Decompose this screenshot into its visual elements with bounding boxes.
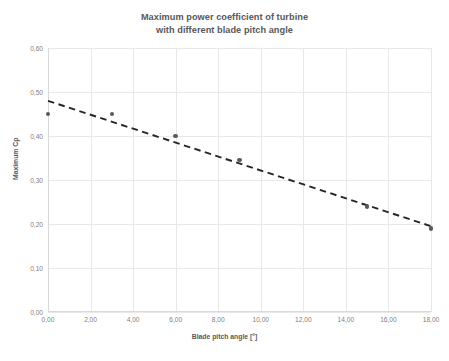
chart-title-line-2: with different blade pitch angle	[0, 24, 449, 37]
x-tick-label: 0,00	[42, 316, 55, 323]
trendline	[48, 101, 431, 226]
x-tick-label: 10,00	[253, 316, 270, 323]
gridline-horizontal	[48, 312, 431, 313]
trendline-layer	[48, 48, 431, 312]
x-tick-label: 12,00	[295, 316, 312, 323]
y-tick-label: 0,20	[30, 221, 43, 228]
x-tick-label: 8,00	[212, 316, 225, 323]
x-tick-label: 2,00	[84, 316, 97, 323]
x-axis-title: Blade pitch angle [°]	[0, 333, 449, 340]
y-tick-label: 0,40	[30, 133, 43, 140]
y-axis-title: Maximum Cp	[12, 138, 19, 180]
gridline-vertical	[431, 48, 432, 312]
x-tick-label: 6,00	[169, 316, 182, 323]
x-tick-label: 18,00	[423, 316, 440, 323]
x-tick-label: 16,00	[380, 316, 397, 323]
chart-title-line-1: Maximum power coefficient of turbine	[0, 11, 449, 24]
plot-area: 0,000,100,200,300,400,500,60 0,002,004,0…	[48, 48, 431, 312]
x-tick-label: 14,00	[338, 316, 355, 323]
y-tick-label: 0,00	[30, 309, 43, 316]
y-tick-label: 0,60	[30, 45, 43, 52]
data-point[interactable]	[429, 226, 434, 231]
y-tick-label: 0,50	[30, 89, 43, 96]
y-tick-label: 0,30	[30, 177, 43, 184]
chart-title: Maximum power coefficient of turbine wit…	[0, 11, 449, 36]
chart-container: Maximum power coefficient of turbine wit…	[0, 0, 449, 361]
x-tick-label: 4,00	[127, 316, 140, 323]
y-tick-label: 0,10	[30, 265, 43, 272]
